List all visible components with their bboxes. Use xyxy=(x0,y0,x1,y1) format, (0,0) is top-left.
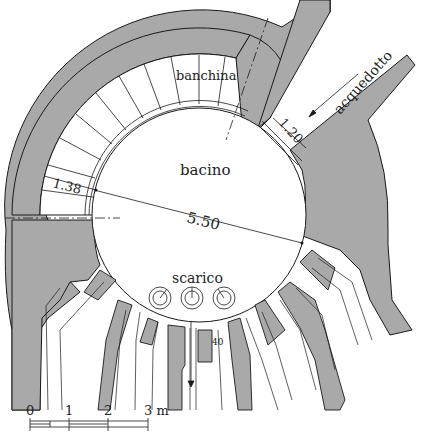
label-scarico: scarico xyxy=(172,270,223,286)
scale-tick-1: 1 xyxy=(65,403,73,418)
label-banchina: banchina xyxy=(176,68,237,83)
scale-bar xyxy=(30,418,148,431)
scale-tick-2: 2 xyxy=(104,403,112,418)
dim-drain: 40 xyxy=(212,337,224,347)
cistern-plan: banchina bacino scarico acquedotto 5.50 … xyxy=(0,0,430,438)
scale-tick-0: 0 xyxy=(26,403,34,418)
drain-arrow xyxy=(188,322,194,387)
left-lower-wall xyxy=(12,220,100,410)
label-bacino: bacino xyxy=(180,161,230,179)
scale-tick-3: 3 m xyxy=(144,403,169,418)
